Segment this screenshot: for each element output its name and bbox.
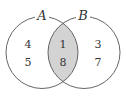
set-b-label: B	[77, 8, 88, 23]
set-b-element: 7	[95, 56, 102, 69]
intersection-element: 8	[60, 56, 67, 69]
set-a-label: A	[36, 8, 46, 23]
intersection-element: 1	[60, 38, 67, 51]
set-a-element: 4	[25, 38, 32, 51]
venn-diagram: A B 4 5 1 8 3 7	[0, 0, 126, 98]
set-b-element: 3	[95, 38, 102, 51]
set-a-element: 5	[25, 56, 32, 69]
